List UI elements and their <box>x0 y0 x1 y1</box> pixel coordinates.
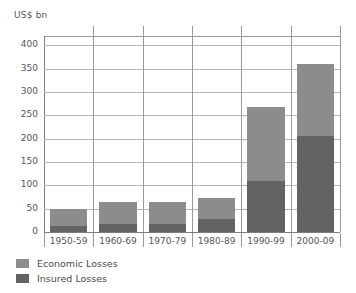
y-axis-tick-label: 100 <box>0 180 38 189</box>
category-divider-line <box>192 36 193 232</box>
y-axis-tick-label: 250 <box>0 110 38 119</box>
category-divider-line <box>93 36 94 232</box>
bar-segment-insured-losses <box>297 136 334 232</box>
legend-item-label: Insured Losses <box>37 273 107 284</box>
y-axis-tick-label: 300 <box>0 87 38 96</box>
x-axis-label-divider <box>192 233 193 247</box>
bar <box>198 198 235 232</box>
top-axis-tick <box>340 26 341 36</box>
bar-segment-insured-losses <box>149 224 186 232</box>
chart-legend: Economic LossesInsured Losses <box>16 256 118 286</box>
plot-area <box>44 36 340 232</box>
bar <box>99 202 136 232</box>
x-axis-category-label: 1980-89 <box>192 236 241 247</box>
legend-item: Economic Losses <box>16 256 118 271</box>
top-axis-tick <box>241 26 242 36</box>
x-axis-category-label: 1950-59 <box>44 236 93 247</box>
bar-segment-insured-losses <box>99 224 136 232</box>
x-axis-label-divider <box>340 233 341 247</box>
y-axis-tick-label: 0 <box>0 227 38 236</box>
top-axis-tick <box>291 26 292 36</box>
legend-swatch-icon <box>16 274 29 283</box>
x-axis-label-divider <box>143 233 144 247</box>
bar <box>247 107 284 232</box>
x-axis-category-label: 1990-99 <box>241 236 290 247</box>
category-divider-line <box>143 36 144 232</box>
x-axis-label-divider <box>241 233 242 247</box>
bar-segment-insured-losses <box>198 219 235 232</box>
category-divider-line <box>241 36 242 232</box>
x-axis-label-divider <box>93 233 94 247</box>
x-axis-category-label: 1970-79 <box>143 236 192 247</box>
legend-swatch-icon <box>16 259 29 268</box>
x-axis-category-label: 2000-09 <box>291 236 340 247</box>
bar <box>149 202 186 232</box>
category-divider-line <box>291 36 292 232</box>
y-axis-tick-label: 50 <box>0 204 38 213</box>
y-axis-tick-label: 150 <box>0 157 38 166</box>
x-axis-label-divider <box>291 233 292 247</box>
y-axis-tick-label: 350 <box>0 64 38 73</box>
legend-item-label: Economic Losses <box>37 258 118 269</box>
y-axis-tick-label: 400 <box>0 40 38 49</box>
top-axis-tick <box>192 26 193 36</box>
top-axis-tick <box>93 26 94 36</box>
category-divider-line <box>340 36 341 232</box>
top-axis-tick <box>143 26 144 36</box>
bar-segment-insured-losses <box>50 226 87 232</box>
losses-bar-chart: US$ bn 050100150200250300350400 1950-591… <box>0 0 356 293</box>
y-axis-unit-label: US$ bn <box>14 10 48 20</box>
bar <box>50 209 87 232</box>
y-axis-tick-label: 200 <box>0 134 38 143</box>
legend-item: Insured Losses <box>16 271 118 286</box>
x-axis-category-label: 1960-69 <box>93 236 142 247</box>
x-axis-label-divider <box>44 233 45 247</box>
bar-segment-insured-losses <box>247 181 284 232</box>
bar <box>297 64 334 232</box>
